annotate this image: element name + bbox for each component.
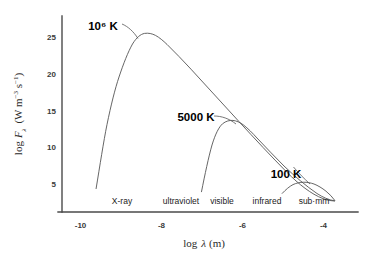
blackbody-spectrum-figure: 5 10 15 20 25 -10 -8 -6 -4 bbox=[0, 0, 366, 257]
band-label-visible: visible bbox=[210, 196, 234, 206]
temp-label-1e6-kelvin: 10⁶ K bbox=[88, 20, 118, 32]
y-tick-labels: 5 10 15 20 25 bbox=[47, 33, 56, 188]
band-label-sub-mm: sub·mm bbox=[299, 196, 330, 206]
x-tick-label: -8 bbox=[158, 221, 166, 230]
x-tick-labels: -10 -8 -6 -4 bbox=[75, 221, 328, 230]
band-label-infrared: infrared bbox=[253, 196, 282, 206]
temp-label-100-kelvin: 100 K bbox=[271, 168, 302, 180]
y-tick-label: 5 bbox=[52, 180, 57, 189]
band-label-x-ray: X-ray bbox=[112, 196, 133, 206]
spectrum-band-labels: X-ray ultraviolet visible infrared sub·m… bbox=[112, 196, 330, 206]
y-tick-label: 15 bbox=[47, 107, 56, 116]
annotation-leaders bbox=[122, 24, 310, 184]
chart-canvas: 5 10 15 20 25 -10 -8 -6 -4 bbox=[0, 0, 366, 257]
leader-1e6-kelvin bbox=[122, 24, 138, 39]
y-tick-label: 10 bbox=[47, 143, 56, 152]
y-axis-title: logFλ (W m−3 s−1) bbox=[12, 72, 28, 155]
curve-5000-kelvin bbox=[202, 120, 335, 201]
band-label-ultraviolet: ultraviolet bbox=[163, 196, 200, 206]
temperature-annotations: 10⁶ K 5000 K 100 K bbox=[88, 20, 302, 180]
y-tick-label: 25 bbox=[47, 33, 56, 42]
x-tick-label: -10 bbox=[75, 221, 87, 230]
temp-label-5000-kelvin: 5000 K bbox=[177, 111, 215, 123]
x-axis-title: logλ(m) bbox=[183, 237, 225, 250]
x-tick-label: -6 bbox=[239, 221, 247, 230]
x-tick-label: -4 bbox=[320, 221, 328, 230]
axis-titles: logλ(m) logFλ (W m−3 s−1) bbox=[12, 72, 225, 250]
y-tick-label: 20 bbox=[47, 70, 56, 79]
